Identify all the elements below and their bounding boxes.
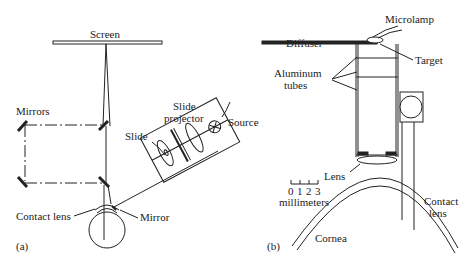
- label-contact-lens-b-1: Contact: [424, 195, 458, 207]
- diagram-canvas: Screen Mirrors Slide projector Source Sl…: [0, 0, 476, 262]
- scale-unit: millimeters: [279, 196, 329, 208]
- label-diffuser: Diffuser: [286, 37, 323, 49]
- mirror-upper-left: [18, 121, 27, 131]
- panel-a-tag: (a): [16, 240, 29, 253]
- label-contact-lens-b-2: lens: [429, 207, 447, 219]
- label-slide-projector-2: projector: [164, 112, 204, 124]
- label-aluminum-tubes-1: Aluminum: [274, 67, 322, 79]
- mirror-lower-left: [18, 177, 27, 187]
- label-aluminum-tubes-2: tubes: [284, 79, 307, 91]
- lens-b: [357, 156, 397, 164]
- label-lens: Lens: [324, 170, 345, 182]
- label-slide-projector-1: Slide: [173, 100, 196, 112]
- label-mirrors: Mirrors: [16, 105, 50, 117]
- label-cornea: Cornea: [315, 232, 347, 244]
- label-slide: Slide: [125, 130, 148, 142]
- panel-b-tag: (b): [267, 240, 280, 253]
- scale-bar: [291, 180, 318, 184]
- label-microlamp: Microlamp: [385, 13, 434, 25]
- label-target: Target: [415, 54, 443, 66]
- microlamp-glyph: [367, 37, 383, 43]
- label-mirror: Mirror: [140, 211, 170, 223]
- eyeball: [89, 212, 125, 248]
- screen-bar: [53, 41, 162, 44]
- slide-glyph: [171, 130, 188, 162]
- label-screen: Screen: [90, 28, 120, 40]
- label-contact-lens: Contact lens: [16, 210, 71, 222]
- label-source: Source: [228, 116, 259, 128]
